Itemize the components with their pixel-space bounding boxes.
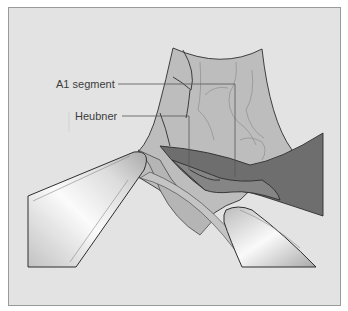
label-a1-segment: A1 segment: [56, 78, 115, 90]
surgical-illustration: [0, 0, 348, 311]
left-retractor: [28, 152, 146, 267]
label-heubner: Heubner: [75, 110, 117, 122]
right-retractor: [224, 207, 316, 267]
